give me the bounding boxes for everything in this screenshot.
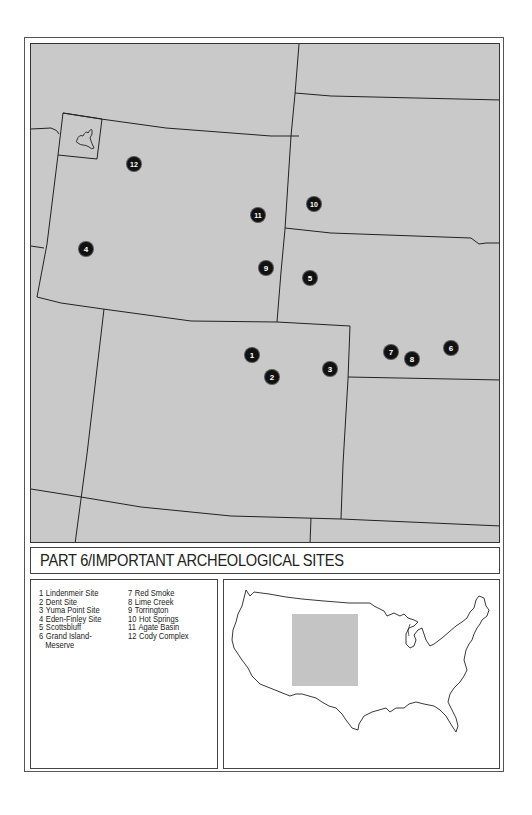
site-marker-6: 6 [444, 341, 458, 355]
highlight-region [292, 614, 358, 686]
site-marker-8: 8 [405, 352, 419, 366]
us-outline-map [224, 580, 500, 769]
legend-item: 6Grand Island-Meserve [39, 632, 101, 649]
site-marker-3: 3 [323, 362, 337, 376]
site-marker-12: 12 [127, 157, 141, 171]
us-outline [232, 590, 489, 732]
site-marker-1: 1 [245, 348, 259, 362]
site-marker-4: 4 [79, 242, 93, 256]
legend-column-2: 7Red Smoke 8Lime Creek 9Torrington 10Hot… [128, 589, 197, 641]
legend-item: 12Cody Complex [128, 632, 189, 641]
site-marker-11: 11 [251, 208, 265, 222]
site-marker-10: 10 [307, 197, 321, 211]
site-marker-7: 7 [384, 345, 398, 359]
yellowstone-lake-shape [76, 129, 94, 148]
state-boundaries [31, 44, 500, 543]
us-locator-inset [223, 579, 500, 769]
site-marker-5: 5 [303, 271, 317, 285]
legend-column-1: 1Lindenmeir Site 2Dent Site 3Yuma Point … [39, 589, 110, 649]
legend-panel: 1Lindenmeir Site 2Dent Site 3Yuma Point … [30, 579, 218, 769]
site-marker-2: 2 [265, 370, 279, 384]
regional-map: 123456789101112 [30, 43, 500, 543]
site-marker-9: 9 [259, 261, 273, 275]
page-title: PART 6/IMPORTANT ARCHEOLOGICAL SITES [40, 551, 344, 571]
title-bar: PART 6/IMPORTANT ARCHEOLOGICAL SITES [30, 547, 500, 574]
